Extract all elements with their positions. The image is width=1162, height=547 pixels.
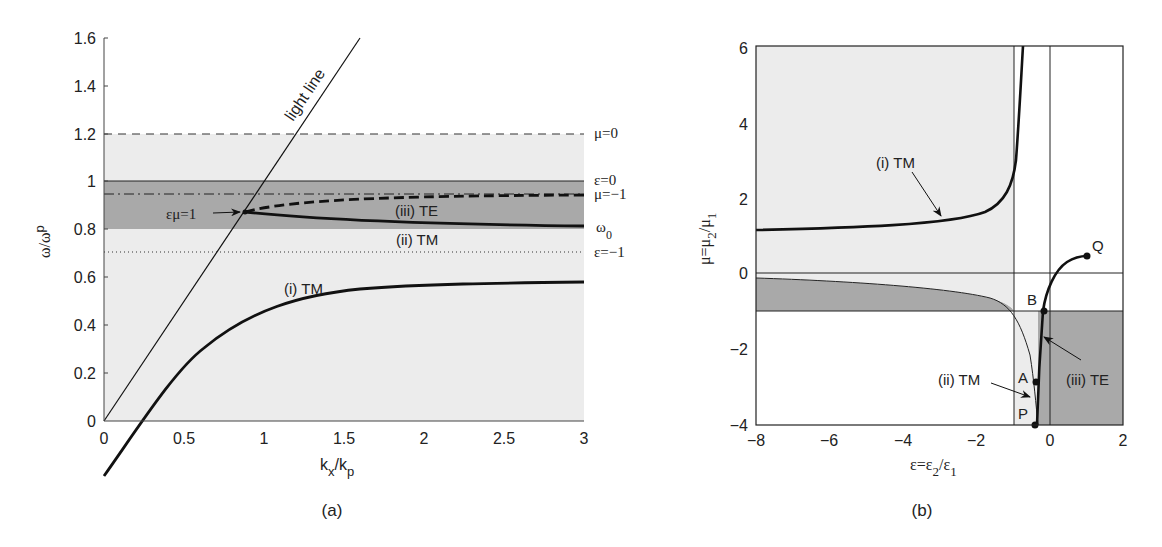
panel-a: 0 0.2 0.4 0.6 0.8 1 1.2 1.4 1.6 0 0.5 1 … (32, 30, 626, 520)
a-x-ticks: 0 0.5 1 1.5 2 2.5 3 (100, 430, 589, 447)
tick: −2 (967, 432, 985, 449)
tick: 1.6 (74, 30, 96, 47)
tick: 0.4 (74, 317, 96, 334)
a-label-iii-te: (iii) TE (395, 202, 438, 219)
tick: 1.5 (333, 430, 355, 447)
label-epsm1: ε=−1 (594, 244, 625, 260)
a-label-i-tm: (i) TM (284, 280, 323, 297)
label-B: B (1027, 291, 1037, 308)
a-ref-labels: μ=0 ε=0 μ=−1 ω0 ε=−1 (594, 125, 626, 260)
label-A: A (1018, 369, 1028, 386)
label-omega0: ω0 (596, 219, 612, 242)
point-Q (1084, 253, 1091, 260)
tick: −2 (730, 341, 748, 358)
tick: 0 (1046, 432, 1055, 449)
point-A (1033, 379, 1040, 386)
b-label-iii-te: (iii) TE (1066, 371, 1109, 388)
figure: 0 0.2 0.4 0.6 0.8 1 1.2 1.4 1.6 0 0.5 1 … (0, 0, 1162, 547)
tick: 2 (420, 430, 429, 447)
b-y-ticks: −4 −2 0 2 4 6 (730, 40, 748, 434)
tick: 0 (739, 265, 748, 282)
label-mum1: μ=−1 (594, 186, 626, 202)
eps-mu-label: εμ=1 (166, 206, 196, 222)
b-x-ticks: −8 −6 −4 −2 0 2 (747, 432, 1128, 449)
a-x-label: kx/kp (320, 456, 354, 479)
point-eps-mu-1 (243, 210, 248, 215)
label-mu0: μ=0 (594, 125, 618, 141)
tick: 1 (87, 173, 96, 190)
tick: 0.8 (74, 221, 96, 238)
tick: 0.5 (173, 430, 195, 447)
point-B (1041, 308, 1048, 315)
a-y-label: ω/ωp (32, 225, 53, 258)
panel-b: −4 −2 0 2 4 6 −8 −6 −4 −2 0 2 ε=ε2/ε1 μ=… (696, 40, 1128, 520)
light-line-label: light line (281, 65, 328, 123)
tick: 0 (87, 413, 96, 430)
tick: 2.5 (493, 430, 515, 447)
tick: 1 (260, 430, 269, 447)
a-label-ii-tm: (ii) TM (396, 231, 438, 248)
tick: −4 (894, 432, 912, 449)
tick: 0.6 (74, 269, 96, 286)
label-P: P (1018, 405, 1028, 422)
tick: 3 (580, 430, 589, 447)
b-label-i-tm: (i) TM (876, 154, 915, 171)
b-caption: (b) (912, 501, 933, 520)
a-caption: (a) (322, 501, 343, 520)
label-Q: Q (1092, 237, 1104, 254)
a-y-ticks: 0 0.2 0.4 0.6 0.8 1 1.2 1.4 1.6 (74, 30, 96, 430)
tick: −8 (747, 432, 765, 449)
b-label-ii-tm: (ii) TM (938, 371, 980, 388)
b-y-label: μ=μ2/μ1 (696, 213, 719, 265)
tick: 4 (739, 116, 748, 133)
tick: 0 (100, 430, 109, 447)
tick: 1.4 (74, 78, 96, 95)
b-x-label: ε=ε2/ε1 (910, 456, 957, 479)
region-dark-right (1038, 311, 1123, 425)
tick: 6 (739, 40, 748, 57)
tick: 1.2 (74, 126, 96, 143)
tick: −6 (820, 432, 838, 449)
tick: 2 (739, 191, 748, 208)
tick: −4 (730, 417, 748, 434)
tick: 0.2 (74, 365, 96, 382)
tick: 2 (1119, 432, 1128, 449)
